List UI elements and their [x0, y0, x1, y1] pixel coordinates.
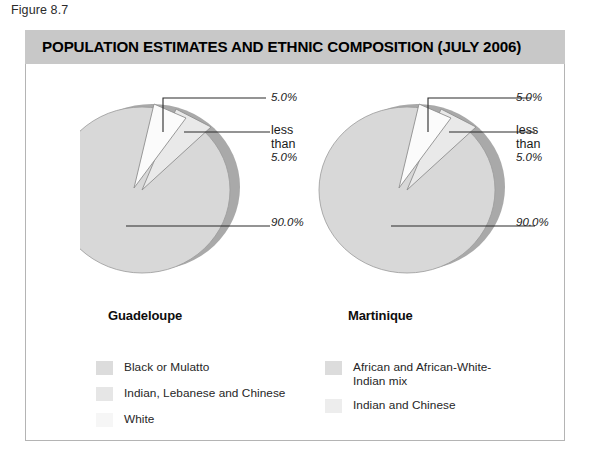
country-label-guadeloupe: Guadeloupe — [108, 308, 182, 323]
legend-item: Indian, Lebanese and Chinese — [96, 386, 326, 403]
country-label-martinique: Martinique — [348, 308, 413, 323]
callout-guadeloupe-top-value: 5.0% — [271, 91, 297, 105]
pie-svg-guadeloupe — [80, 80, 320, 330]
legend-swatch-icon — [96, 361, 113, 375]
pie-svg-martinique — [300, 80, 540, 330]
callout-guadeloupe-less-value: 5.0% — [271, 151, 297, 163]
callout-martinique-lessthan: less than 5.0% — [516, 124, 542, 163]
legend-item: Indian and Chinese — [325, 398, 525, 415]
legend-item-label: Black or Mulatto — [124, 360, 209, 374]
legend-item: African and African-White- Indian mix — [325, 360, 525, 389]
callout-guadeloupe-lessthan: less than 5.0% — [271, 124, 297, 163]
callout-martinique-major-value: 90.0% — [516, 216, 549, 230]
legend-item: Black or Mulatto — [96, 360, 326, 377]
legend-swatch-icon — [96, 413, 113, 427]
legend-swatch-icon — [325, 399, 342, 413]
legend-item: White — [96, 412, 326, 429]
pie-chart-guadeloupe — [80, 80, 320, 330]
callout-martinique-less-line1: less — [516, 124, 542, 138]
legend-column-right: African and African-White- Indian mix In… — [325, 360, 525, 424]
legend-item-label: Indian and Chinese — [353, 398, 456, 412]
legend-swatch-icon — [96, 387, 113, 401]
callout-guadeloupe-less-line1: less — [271, 124, 297, 138]
chart-title: POPULATION ESTIMATES AND ETHNIC COMPOSIT… — [42, 38, 521, 55]
callout-guadeloupe-major-value: 90.0% — [271, 216, 304, 230]
legend-item-label: African and African-White- Indian mix — [353, 360, 491, 389]
callout-martinique-less-line2: than — [516, 138, 542, 152]
callout-guadeloupe-less-line2: than — [271, 138, 297, 152]
chart-legend: Black or Mulatto Indian, Lebanese and Ch… — [96, 360, 526, 438]
legend-item-label: White — [124, 412, 154, 426]
callout-martinique-top-value: 5.0% — [516, 91, 542, 105]
chart-title-bar: POPULATION ESTIMATES AND ETHNIC COMPOSIT… — [25, 30, 565, 64]
legend-column-left: Black or Mulatto Indian, Lebanese and Ch… — [96, 360, 326, 438]
pie-chart-martinique — [300, 80, 540, 330]
legend-swatch-icon — [325, 361, 342, 375]
legend-item-label: Indian, Lebanese and Chinese — [124, 386, 285, 400]
figure-caption: Figure 8.7 — [11, 3, 68, 17]
callout-martinique-less-value: 5.0% — [516, 151, 542, 163]
